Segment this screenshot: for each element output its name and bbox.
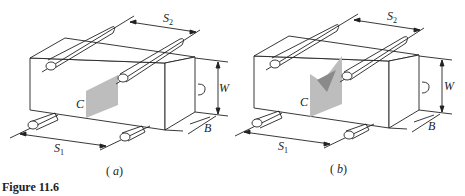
beam-diagram-b [232, 0, 465, 180]
subcaption-a: ( a) [106, 164, 123, 179]
label-w: W [219, 82, 229, 94]
subcaption-b: ( b) [330, 162, 347, 177]
label-b: B [204, 122, 211, 134]
label-s1: S1 [278, 140, 288, 155]
beam-diagram-a [0, 0, 232, 180]
label-w: W [444, 80, 454, 92]
label-b: B [428, 120, 435, 132]
label-s1: S1 [54, 142, 64, 157]
label-c: C [76, 98, 84, 110]
figure-caption: Figure 11.6 [2, 180, 59, 195]
panel-a: S2 S1 W B C ( a) [0, 0, 232, 180]
label-s2: S2 [163, 12, 173, 27]
label-s2: S2 [387, 10, 397, 25]
label-c: C [300, 96, 308, 108]
panel-b: S2 S1 W B C ( b) [232, 0, 464, 180]
